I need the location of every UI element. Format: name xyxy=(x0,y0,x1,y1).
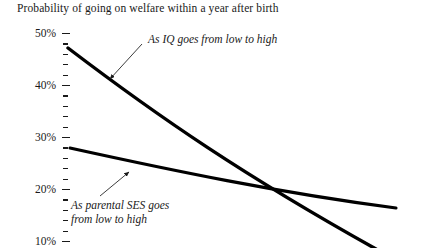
welfare-probability-chart: Probability of going on welfare within a… xyxy=(0,0,439,248)
annotation-label-ses-line1: As parental SES goes xyxy=(71,199,169,213)
annotation-label-iq: As IQ goes from low to high xyxy=(148,33,277,47)
leader-arrow-ses xyxy=(100,172,129,196)
leader-arrow-iq xyxy=(110,44,142,79)
annotation-label-ses-line2: from low to high xyxy=(71,213,147,227)
annotations: As IQ goes from low to high As parental … xyxy=(0,0,439,248)
